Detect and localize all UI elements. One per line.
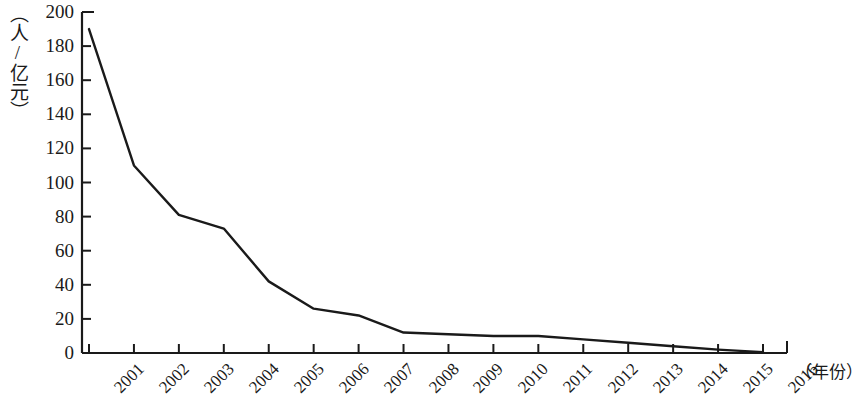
y-axis-tick-label: 160 — [26, 70, 74, 89]
y-axis-tick-label: 140 — [26, 104, 74, 123]
y-axis-tick-label: 180 — [26, 36, 74, 55]
y-axis-tick-label: 0 — [26, 343, 74, 362]
y-axis-tick-label: 60 — [26, 241, 74, 260]
y-axis-tick-label: 20 — [26, 309, 74, 328]
y-axis-tick-label: 100 — [26, 173, 74, 192]
x-axis-title: （年份） — [795, 358, 857, 383]
y-axis-tick-label: 40 — [26, 275, 74, 294]
y-axis-tick-marks — [82, 12, 94, 353]
data-series-line — [89, 29, 763, 352]
y-axis-tick-label: 200 — [26, 2, 74, 21]
line-chart: （人/亿元） 020406080100120140160180200 20012… — [0, 0, 857, 406]
y-axis-tick-label: 80 — [26, 207, 74, 226]
y-axis-tick-label: 120 — [26, 138, 74, 157]
chart-plot-area — [0, 0, 857, 406]
